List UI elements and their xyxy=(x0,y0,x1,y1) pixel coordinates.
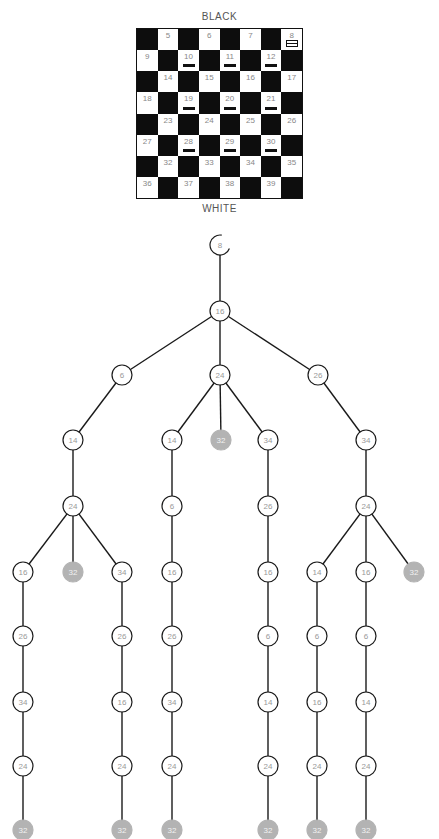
tree-edge xyxy=(220,375,268,440)
tree-edge xyxy=(366,506,414,572)
tree-node-label: 24 xyxy=(19,762,28,771)
tree-node-label: 34 xyxy=(362,436,371,445)
tree-node-label: 6 xyxy=(266,632,271,641)
tree-node-label: 34 xyxy=(168,698,177,707)
tree-node: 14 xyxy=(258,692,278,712)
tree-node-terminal: 32 xyxy=(162,820,182,839)
tree-node-label: 16 xyxy=(19,568,28,577)
tree-node: 34 xyxy=(112,562,132,582)
tree-node: 34 xyxy=(162,692,182,712)
tree-node: 6 xyxy=(258,626,278,646)
tree-node: 26 xyxy=(308,365,328,385)
tree-edge xyxy=(73,506,122,572)
tree-node: 34 xyxy=(356,430,376,450)
tree-node: 14 xyxy=(162,430,182,450)
tree-edge xyxy=(122,311,220,375)
tree-node-label: 32 xyxy=(118,826,127,835)
tree-node: 26 xyxy=(258,496,278,516)
tree-node: 16 xyxy=(210,301,230,321)
tree-node-label: 14 xyxy=(313,568,322,577)
tree-node-label: 6 xyxy=(315,632,320,641)
tree-node-label: 8 xyxy=(218,241,223,250)
tree-node: 24 xyxy=(13,756,33,776)
tree-node-terminal: 32 xyxy=(307,820,327,839)
tree-node-label: 34 xyxy=(118,568,127,577)
tree-node-label: 14 xyxy=(264,698,273,707)
tree-node: 24 xyxy=(63,496,83,516)
tree-node-label: 32 xyxy=(264,826,273,835)
tree-node: 16 xyxy=(356,562,376,582)
tree-node-label: 26 xyxy=(168,632,177,641)
tree-node: 24 xyxy=(356,496,376,516)
tree-node: 6 xyxy=(356,626,376,646)
tree-node: 6 xyxy=(162,496,182,516)
tree-edge xyxy=(23,506,73,572)
tree-node-terminal: 32 xyxy=(211,430,231,450)
tree-node-label: 32 xyxy=(69,568,78,577)
tree-node-label: 32 xyxy=(410,568,419,577)
tree-node-label: 16 xyxy=(313,698,322,707)
tree-node: 26 xyxy=(13,626,33,646)
tree-node: 6 xyxy=(112,365,132,385)
tree-edge xyxy=(220,311,318,375)
tree-node-label: 32 xyxy=(19,826,28,835)
tree-node: 26 xyxy=(162,626,182,646)
tree-node-label: 32 xyxy=(362,826,371,835)
tree-node: 14 xyxy=(63,430,83,450)
tree-node-label: 34 xyxy=(19,698,28,707)
tree-node-label: 26 xyxy=(264,502,273,511)
tree-node: 16 xyxy=(13,562,33,582)
tree-node: 6 xyxy=(307,626,327,646)
tree-node-label: 16 xyxy=(216,307,225,316)
tree-node: 16 xyxy=(162,562,182,582)
tree-edge xyxy=(318,375,366,440)
tree-node-label: 16 xyxy=(118,698,127,707)
tree-node: 16 xyxy=(112,692,132,712)
tree-node-terminal: 32 xyxy=(356,820,376,839)
tree-node-label: 24 xyxy=(264,762,273,771)
tree-node-label: 16 xyxy=(362,568,371,577)
tree-node-label: 16 xyxy=(264,568,273,577)
tree-node-label: 24 xyxy=(216,371,225,380)
tree-node-label: 14 xyxy=(168,436,177,445)
tree-node-label: 24 xyxy=(313,762,322,771)
tree-node: 24 xyxy=(210,365,230,385)
tree-node: 14 xyxy=(307,562,327,582)
tree-node-label: 24 xyxy=(69,502,78,511)
tree-node-terminal: 32 xyxy=(63,562,83,582)
tree-node-label: 14 xyxy=(69,436,78,445)
tree-edge xyxy=(73,375,122,440)
tree-node: 34 xyxy=(13,692,33,712)
tree-node-label: 26 xyxy=(118,632,127,641)
tree-node-terminal: 32 xyxy=(258,820,278,839)
tree-node: 26 xyxy=(112,626,132,646)
tree-node-terminal: 32 xyxy=(404,562,424,582)
tree-node: 24 xyxy=(258,756,278,776)
tree-node-terminal: 32 xyxy=(13,820,33,839)
tree-node-label: 32 xyxy=(168,826,177,835)
tree-node: 24 xyxy=(356,756,376,776)
tree-edge xyxy=(317,506,366,572)
tree-node-label: 6 xyxy=(364,632,369,641)
tree-node-label: 32 xyxy=(313,826,322,835)
tree-node-label: 32 xyxy=(217,436,226,445)
tree-node-label: 24 xyxy=(362,502,371,511)
tree-node-label: 24 xyxy=(168,762,177,771)
tree-node-label: 26 xyxy=(314,371,323,380)
tree-node-label: 16 xyxy=(168,568,177,577)
tree-node-label: 26 xyxy=(19,632,28,641)
tree-node: 24 xyxy=(162,756,182,776)
tree-node-label: 14 xyxy=(362,698,371,707)
tree-node-label: 6 xyxy=(170,502,175,511)
tree-edge xyxy=(172,375,220,440)
tree-node: 34 xyxy=(258,430,278,450)
tree-node-start: 8 xyxy=(210,235,230,255)
tree-node: 24 xyxy=(307,756,327,776)
move-tree-diagram: 8166242614143234342462624163234161614163… xyxy=(0,0,439,839)
tree-node-label: 6 xyxy=(120,371,125,380)
tree-node-label: 24 xyxy=(362,762,371,771)
tree-node-label: 34 xyxy=(264,436,273,445)
tree-node: 16 xyxy=(258,562,278,582)
tree-node-terminal: 32 xyxy=(112,820,132,839)
tree-node: 14 xyxy=(356,692,376,712)
